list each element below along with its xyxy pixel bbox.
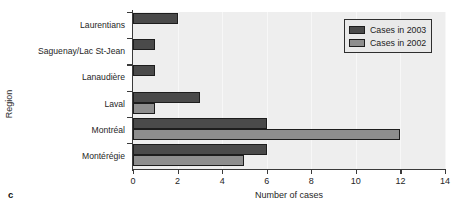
legend-item: Cases in 2003 [349, 23, 426, 36]
x-axis-tick-label: 4 [207, 176, 237, 186]
y-axis-tick [127, 117, 133, 118]
bar-cases-in-2003-5 [133, 144, 267, 155]
y-axis-tick [127, 12, 133, 13]
bar-cases-in-2003-3 [133, 92, 200, 103]
bar-cases-in-2002-3 [133, 103, 155, 114]
x-axis-tick [178, 169, 179, 174]
y-axis-tick [127, 64, 133, 65]
bar-cases-in-2003-0 [133, 13, 178, 24]
legend-label: Cases in 2003 [370, 25, 426, 35]
x-axis-tick [400, 169, 401, 174]
category-label: Montérégie [10, 151, 125, 161]
legend-item: Cases in 2002 [349, 36, 426, 49]
x-axis-tick-label: 8 [296, 176, 326, 186]
x-axis-tick-label: 2 [163, 176, 193, 186]
x-axis-tick [222, 169, 223, 174]
gridline [267, 12, 268, 169]
x-axis-tick [356, 169, 357, 174]
figure-panel-c: Region LaurentiansSaguenay/Lac St-JeanLa… [0, 0, 460, 208]
legend-label: Cases in 2002 [370, 38, 426, 48]
legend: Cases in 2003Cases in 2002 [344, 19, 432, 53]
bar-cases-in-2002-4 [133, 129, 400, 140]
y-axis-tick [127, 91, 133, 92]
x-axis-tick-label: 10 [341, 176, 371, 186]
x-axis-tick-label: 0 [118, 176, 148, 186]
category-label: Laurentians [10, 20, 125, 30]
category-label: Montréal [10, 125, 125, 135]
category-label: Saguenay/Lac St-Jean [10, 46, 125, 56]
x-axis-tick [311, 169, 312, 174]
x-axis-tick-label: 14 [430, 176, 460, 186]
legend-swatch-icon [349, 26, 365, 34]
x-axis-tick-label: 6 [252, 176, 282, 186]
category-labels: LaurentiansSaguenay/Lac St-JeanLanaudièr… [14, 12, 129, 169]
panel-letter: c [8, 189, 13, 200]
category-label: Laval [10, 99, 125, 109]
category-label: Lanaudière [10, 72, 125, 82]
gridline [445, 12, 446, 169]
bar-cases-in-2003-4 [133, 118, 267, 129]
legend-swatch-icon [349, 39, 365, 47]
x-axis-line [132, 169, 446, 170]
x-axis-title: Number of cases [133, 190, 445, 200]
bar-cases-in-2002-5 [133, 155, 244, 166]
x-axis-tick [445, 169, 446, 174]
bar-cases-in-2003-2 [133, 65, 155, 76]
y-axis-tick [127, 143, 133, 144]
x-axis-tick [267, 169, 268, 174]
y-axis-tick [127, 38, 133, 39]
bar-cases-in-2003-1 [133, 39, 155, 50]
gridline [311, 12, 312, 169]
x-axis-tick-label: 12 [385, 176, 415, 186]
x-axis-tick [133, 169, 134, 174]
